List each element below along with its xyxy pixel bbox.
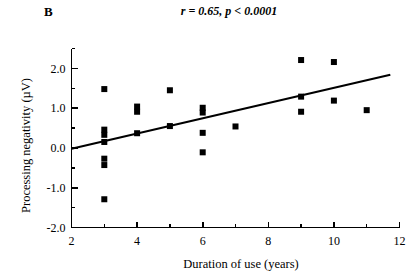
data-point	[298, 109, 304, 115]
scatter-plot: 2.01.00.0-1.0-2.024681012	[0, 0, 416, 279]
regression-line-segment	[72, 75, 391, 149]
y-tick-label: 0.0	[51, 141, 66, 155]
data-point	[331, 98, 337, 104]
axis-tick-labels: 2.01.00.0-1.0-2.024681012	[47, 62, 406, 248]
data-point	[331, 59, 337, 65]
data-point	[167, 123, 173, 129]
data-point	[101, 86, 107, 92]
x-tick-label: 10	[328, 234, 340, 248]
x-axis-title: Duration of use (years)	[72, 257, 410, 272]
data-point	[167, 87, 173, 93]
data-point	[200, 130, 206, 136]
data-point	[298, 94, 304, 100]
y-tick-label: 2.0	[51, 62, 66, 76]
data-point	[134, 109, 140, 115]
data-point	[101, 127, 107, 133]
data-point	[364, 107, 370, 113]
data-point	[200, 110, 206, 116]
x-tick-label: 8	[265, 234, 271, 248]
figure-panel: B r = 0.65, p < 0.0001 2.01.00.0-1.0-2.0…	[0, 0, 416, 279]
data-point	[101, 132, 107, 138]
y-axis-title: Processing negativity (µV)	[19, 41, 34, 251]
data-point	[200, 149, 206, 155]
x-tick-label: 2	[69, 234, 75, 248]
y-tick-label: 1.0	[51, 101, 66, 115]
x-tick-label: 4	[134, 234, 140, 248]
data-point	[134, 104, 140, 110]
data-point	[101, 139, 107, 145]
y-tick-label: -2.0	[47, 221, 66, 235]
data-points	[101, 57, 369, 202]
data-point	[101, 196, 107, 202]
data-point	[233, 123, 239, 129]
data-point	[101, 156, 107, 162]
regression-line	[72, 75, 391, 149]
x-tick-label: 12	[394, 234, 406, 248]
x-tick-label: 6	[200, 234, 206, 248]
data-point	[134, 130, 140, 136]
data-point	[101, 162, 107, 168]
y-tick-label: -1.0	[47, 181, 66, 195]
data-point	[298, 57, 304, 63]
